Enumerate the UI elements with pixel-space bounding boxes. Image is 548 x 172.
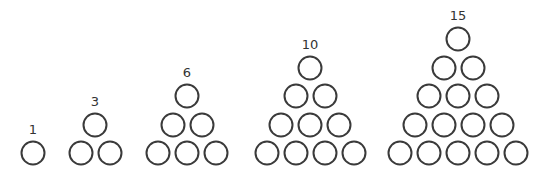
circle-icon xyxy=(504,141,529,166)
circle-icon xyxy=(475,141,500,166)
circle-icon xyxy=(402,112,427,137)
circle-icon xyxy=(446,141,471,166)
circle-icon xyxy=(417,84,442,109)
circle-icon xyxy=(431,112,456,137)
circle-icon xyxy=(417,141,442,166)
group-label: 15 xyxy=(450,9,467,22)
circle-icon xyxy=(460,55,485,80)
circle-icon xyxy=(446,84,471,109)
circle-icon xyxy=(489,112,514,137)
circle-icon xyxy=(431,55,456,80)
triangle-group-15: 15 xyxy=(0,0,548,172)
circle-icon xyxy=(475,84,500,109)
circle-icon xyxy=(446,27,471,52)
circle-icon xyxy=(460,112,485,137)
circle-icon xyxy=(388,141,413,166)
